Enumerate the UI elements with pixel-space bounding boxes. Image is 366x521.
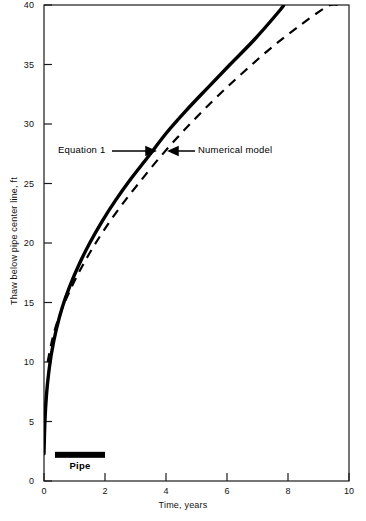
y-tick-label-0: 0 xyxy=(10,476,34,486)
x-axis-title: Time, years xyxy=(0,500,366,510)
pipe-bar-marker xyxy=(55,452,105,458)
y-tick-label-5: 5 xyxy=(10,417,34,427)
pipe-label: Pipe xyxy=(55,460,105,471)
annotation-numerical-model: Numerical model xyxy=(198,144,272,155)
x-tick-label-4: 4 xyxy=(163,486,168,496)
y-axis-title: Thaw below pipe center line, ft xyxy=(9,141,19,341)
x-tick-label-10: 10 xyxy=(344,486,354,496)
y-tick-label-10: 10 xyxy=(10,357,34,367)
thaw-depth-chart: 40 35 30 25 20 15 10 5 0 0 2 4 6 8 10 Ti… xyxy=(0,0,366,521)
x-tick-label-2: 2 xyxy=(102,486,107,496)
y-tick-label-35: 35 xyxy=(10,60,34,70)
x-tick-label-6: 6 xyxy=(224,486,229,496)
chart-canvas xyxy=(0,0,366,521)
x-tick-label-8: 8 xyxy=(285,486,290,496)
y-tick-label-30: 30 xyxy=(10,119,34,129)
x-tick-label-0: 0 xyxy=(41,486,46,496)
y-tick-label-40: 40 xyxy=(10,0,34,10)
annotation-equation-1: Equation 1 xyxy=(58,144,105,155)
